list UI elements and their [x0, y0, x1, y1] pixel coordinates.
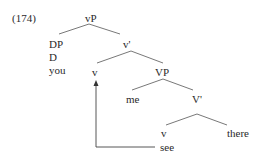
movement-arrow: [96, 84, 155, 147]
arrowhead-icon: [94, 80, 99, 86]
tree-branches: [0, 0, 263, 158]
